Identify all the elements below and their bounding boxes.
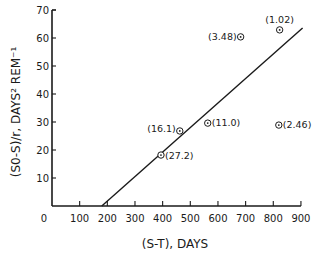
data-points: (27.2)(16.1)(11.0)(3.48)(2.46)(1.02) — [147, 14, 311, 161]
point-label: (11.0) — [212, 117, 241, 128]
y-tick-label: 50 — [36, 61, 49, 72]
point-label: (27.2) — [165, 150, 194, 161]
x-tick-label: 800 — [264, 213, 283, 224]
data-point: (16.1) — [147, 123, 183, 134]
x-tick-label: 400 — [153, 213, 172, 224]
x-tick-label: 100 — [70, 213, 89, 224]
data-point: (1.02) — [265, 14, 294, 33]
y-tick-label: 10 — [36, 173, 49, 184]
x-tick-label: 600 — [208, 213, 227, 224]
x-tick-label: 300 — [125, 213, 144, 224]
y-tick-label: 30 — [36, 117, 49, 128]
point-label: (16.1) — [147, 123, 176, 134]
y-axis-ticks: 10203040506070 — [36, 5, 56, 184]
x-axis-title: (S-T), DAYS — [142, 237, 208, 251]
x-tick-label: 900 — [291, 213, 310, 224]
data-point: (11.0) — [205, 117, 241, 128]
y-tick-label: 40 — [36, 89, 49, 100]
y-axis-title: (S0-S)/r, DAYS² REM⁻¹ — [9, 47, 23, 178]
x-tick-label: 200 — [98, 213, 117, 224]
axes — [52, 10, 301, 206]
y-tick-label: 60 — [36, 33, 49, 44]
fit-line — [102, 28, 303, 206]
scatter-chart: 0100200300400500600700800900 10203040506… — [0, 0, 318, 259]
point-label: (3.48) — [208, 31, 237, 42]
x-axis-ticks: 0100200300400500600700800900 — [41, 201, 311, 224]
y-tick-label: 70 — [36, 5, 49, 16]
regression-line — [102, 28, 303, 206]
data-point: (2.46) — [276, 119, 312, 130]
x-tick-label: 700 — [236, 213, 255, 224]
y-tick-label: 20 — [36, 145, 49, 156]
point-label: (2.46) — [283, 119, 312, 130]
x-tick-label: 0 — [41, 213, 47, 224]
x-tick-label: 500 — [181, 213, 200, 224]
data-point: (3.48) — [208, 31, 244, 42]
point-label: (1.02) — [265, 14, 294, 25]
